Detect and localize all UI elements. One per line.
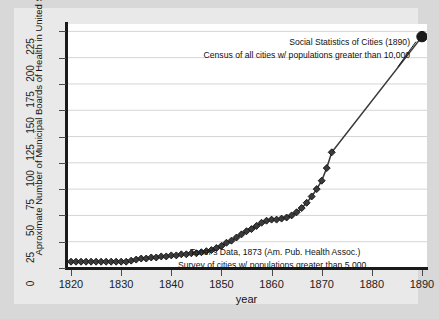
- y-tick-mark: [59, 242, 66, 243]
- x-tick-mark: [171, 270, 172, 276]
- x-tick-label: 1850: [198, 278, 244, 290]
- data-point-marker: [323, 165, 330, 172]
- x-tick-mark: [372, 270, 373, 276]
- annotation-toner-data-title: Toner's Data, 1873 (Am. Pub. Health Asso…: [190, 247, 420, 257]
- y-tick-mark: [59, 189, 66, 190]
- data-point-marker: [318, 177, 325, 184]
- annotation-toner-data-detail: Survey of cities w/ populations greater …: [178, 260, 420, 270]
- x-axis-title: year: [66, 293, 427, 305]
- y-tick-mark: [59, 215, 66, 216]
- x-tick-label: 1880: [349, 278, 395, 290]
- x-tick-label: 1870: [299, 278, 345, 290]
- x-tick-mark: [272, 270, 273, 276]
- x-tick-mark: [121, 270, 122, 276]
- plot-area: [66, 24, 427, 268]
- annotation-social-statistics-title: Social Statistics of Cities (1890): [214, 37, 410, 47]
- y-tick-mark: [59, 84, 66, 85]
- y-tick-mark: [59, 268, 66, 269]
- x-tick-label: 1890: [399, 278, 439, 290]
- y-axis-spine: [65, 22, 68, 270]
- x-tick-label: 1820: [48, 278, 94, 290]
- y-tick-mark: [59, 110, 66, 111]
- y-tick-mark: [59, 137, 66, 138]
- y-tick-mark: [59, 163, 66, 164]
- data-point-1890: [417, 31, 427, 41]
- x-tick-label: 1830: [98, 278, 144, 290]
- y-axis-title: Aproximate Number of Municipal Boards of…: [33, 16, 44, 256]
- chart-canvas: 0255075100125150175200225 18201830184018…: [14, 8, 418, 304]
- y-tick-mark: [59, 58, 66, 59]
- annotation-social-statistics-detail: Census of all cities w/ populations grea…: [184, 50, 410, 60]
- plot-svg: [66, 24, 427, 268]
- x-tick-mark: [422, 270, 423, 276]
- x-tick-label: 1860: [249, 278, 295, 290]
- y-tick-mark: [59, 31, 66, 32]
- x-tick-label: 1840: [148, 278, 194, 290]
- x-tick-mark: [322, 270, 323, 276]
- x-tick-mark: [221, 270, 222, 276]
- x-tick-mark: [71, 270, 72, 276]
